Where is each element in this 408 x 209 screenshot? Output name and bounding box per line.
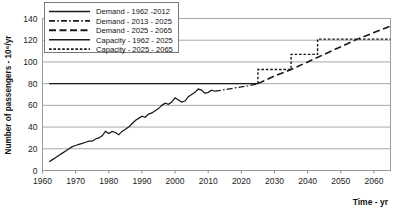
x-tick-label-2010: 2010: [199, 176, 218, 186]
x-tick-label-2030: 2030: [265, 176, 284, 186]
y-tick-label-20: 20: [28, 144, 38, 154]
y-tick-label-80: 80: [28, 79, 38, 89]
legend-label-2: Demand - 2025 - 2065: [96, 26, 172, 35]
y-tick-label-60: 60: [28, 100, 38, 110]
x-tick-label-2050: 2050: [331, 176, 350, 186]
x-tick-label-2060: 2060: [364, 176, 383, 186]
chart-legend: Demand - 1962 -2012Demand - 2013 - 2025D…: [45, 3, 179, 55]
x-tick-label-1970: 1970: [66, 176, 85, 186]
y-tick-label-40: 40: [28, 122, 38, 132]
chart-container: 020406080100120140 196019701980199020002…: [0, 0, 408, 209]
y-tick-label-120: 120: [23, 35, 37, 45]
x-tick-label-1960: 1960: [33, 176, 52, 186]
y-tick-label-100: 100: [23, 57, 37, 67]
x-tick-label-2000: 2000: [166, 176, 185, 186]
passenger-demand-capacity-chart: 020406080100120140 196019701980199020002…: [0, 0, 408, 209]
y-tick-label-140: 140: [23, 14, 37, 24]
x-tick-label-2040: 2040: [298, 176, 317, 186]
x-tick-label-2020: 2020: [232, 176, 251, 186]
legend-label-1: Demand - 2013 - 2025: [96, 17, 172, 26]
x-tick-label-1990: 1990: [132, 176, 151, 186]
y-axis-title: Number of passengers - 10⁶/yr: [4, 35, 13, 155]
legend-label-4: Capacity - 2025 - 2065: [96, 45, 173, 54]
legend-label-0: Demand - 1962 -2012: [96, 7, 170, 16]
x-axis-title: Time - yr: [353, 197, 389, 207]
y-tick-label-0: 0: [33, 166, 38, 176]
svg-text:Number of passengers - 10⁶/yr: Number of passengers - 10⁶/yr: [4, 35, 13, 155]
x-tick-label-1980: 1980: [99, 176, 118, 186]
legend-label-3: Capacity - 1962 - 2025: [96, 36, 173, 45]
